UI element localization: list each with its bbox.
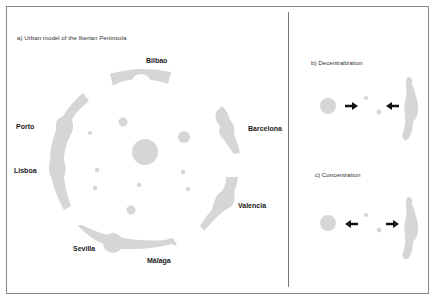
label-porto: Porto xyxy=(16,123,34,130)
interior-node xyxy=(181,170,185,174)
panel-b-decentralization: b) Decentralization xyxy=(311,59,418,140)
arrow-left-icon xyxy=(345,220,358,228)
label-malaga: Málaga xyxy=(147,257,171,265)
outer-frame xyxy=(7,7,429,294)
sevilla-node xyxy=(103,233,123,253)
small-node xyxy=(377,228,382,233)
label-sevilla: Sevilla xyxy=(73,245,95,252)
madrid-node xyxy=(132,139,158,165)
panel-a-title: a) Urban model of the Iberian Peninsula xyxy=(17,34,127,41)
label-bilbao: Bilbao xyxy=(146,57,167,64)
interior-node xyxy=(137,183,141,187)
interior-node xyxy=(186,187,190,191)
interior-node xyxy=(178,131,190,143)
label-lisboa: Lisboa xyxy=(14,167,37,174)
small-node xyxy=(364,213,368,217)
porto-node xyxy=(56,117,70,131)
valencia-node xyxy=(216,193,230,207)
interior-node xyxy=(95,168,99,172)
coastal-blob xyxy=(403,77,419,140)
panel-c-concentration: c) Concentration xyxy=(315,171,418,259)
capital-node xyxy=(320,98,336,114)
arrow-right-icon xyxy=(345,102,358,110)
coastal-blob xyxy=(403,197,419,259)
arrow-left-icon xyxy=(386,102,399,110)
panel-b-title: b) Decentralization xyxy=(311,59,363,66)
diagram-canvas: a) Urban model of the Iberian Peninsula … xyxy=(0,0,435,300)
porto-lisboa-arc xyxy=(49,93,89,210)
arrow-right-icon xyxy=(386,220,399,228)
lisboa-node xyxy=(49,162,65,178)
interior-node xyxy=(93,186,97,190)
small-node xyxy=(364,96,368,100)
small-node xyxy=(377,110,382,115)
label-barcelona: Barcelona xyxy=(248,125,282,132)
panel-a-urban-model: a) Urban model of the Iberian Peninsula … xyxy=(14,34,282,265)
barcelona-segment xyxy=(216,106,241,154)
interior-node xyxy=(88,131,92,135)
panel-c-title: c) Concentration xyxy=(315,171,361,178)
label-valencia: Valencia xyxy=(238,202,266,209)
interior-node xyxy=(119,118,128,127)
interior-node xyxy=(127,206,136,215)
bilbao-arc xyxy=(110,69,171,86)
capital-node xyxy=(320,215,336,231)
